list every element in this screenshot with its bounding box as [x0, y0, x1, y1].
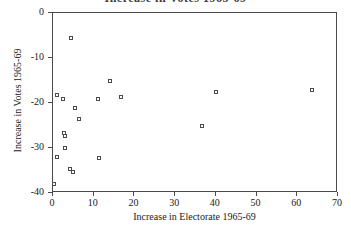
- data-point: [200, 124, 204, 128]
- data-point: [63, 146, 67, 150]
- x-axis-tick: [52, 192, 53, 196]
- data-point: [77, 117, 81, 121]
- y-axis-tick-label: -40: [16, 186, 44, 197]
- x-axis-tick: [296, 192, 297, 196]
- x-axis-tick: [337, 192, 338, 196]
- data-point: [214, 90, 218, 94]
- x-axis-tick: [256, 192, 257, 196]
- y-axis-tick: [48, 57, 52, 58]
- x-axis-label: Increase in Electorate 1965-69: [52, 211, 337, 222]
- y-axis-tick-label: 0: [16, 6, 44, 17]
- y-axis-tick: [48, 12, 52, 13]
- data-point: [96, 97, 100, 101]
- y-axis-tick: [48, 102, 52, 103]
- data-point: [310, 88, 314, 92]
- y-axis-tick: [48, 192, 52, 193]
- chart-title: Increase in Votes 1965-69: [0, 0, 351, 2]
- data-points-layer: [53, 13, 336, 191]
- y-axis-label: Increase in Votes 1965-69: [12, 21, 23, 181]
- data-point: [61, 97, 65, 101]
- x-axis-tick-label: 10: [78, 197, 108, 208]
- data-point: [71, 170, 75, 174]
- x-axis-tick: [174, 192, 175, 196]
- x-axis-tick-label: 50: [241, 197, 271, 208]
- x-axis-tick-label: 30: [159, 197, 189, 208]
- data-point: [73, 106, 77, 110]
- x-axis-tick-label: 40: [200, 197, 230, 208]
- x-axis-tick-label: 20: [118, 197, 148, 208]
- plot-area: [52, 12, 337, 192]
- data-point: [63, 134, 67, 138]
- data-point: [52, 182, 56, 186]
- x-axis-tick-label: 60: [281, 197, 311, 208]
- data-point: [55, 93, 59, 97]
- data-point: [97, 156, 101, 160]
- data-point: [55, 155, 59, 159]
- y-axis-tick: [48, 147, 52, 148]
- x-axis-tick: [93, 192, 94, 196]
- x-axis-tick: [215, 192, 216, 196]
- data-point: [69, 36, 73, 40]
- data-point: [108, 79, 112, 83]
- x-axis-tick-label: 70: [322, 197, 351, 208]
- data-point: [119, 95, 123, 99]
- scatter-chart-figure: Increase in Votes 1965-69 01020304050607…: [0, 0, 351, 230]
- x-axis-tick-label: 0: [37, 197, 67, 208]
- x-axis-tick: [133, 192, 134, 196]
